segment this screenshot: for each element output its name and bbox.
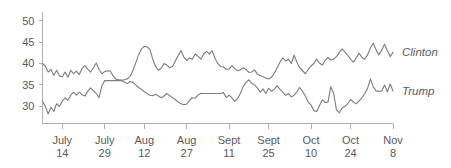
- y-tick-label-50: 50: [22, 15, 34, 27]
- series-line-trump: [43, 79, 394, 114]
- x-tick-label-month-3: Aug: [177, 134, 197, 146]
- x-tick-label-month-1: July: [95, 134, 115, 146]
- x-tick-label-day-6: 10: [305, 147, 317, 159]
- series-line-clinton: [43, 43, 394, 80]
- series-label-clinton: Clinton: [402, 46, 438, 58]
- x-axis-tick-labels: July14July29Aug12Aug27Sept11Sept25Oct10O…: [53, 134, 404, 159]
- x-axis-ticks: [62, 124, 393, 129]
- y-tick-label-30: 30: [22, 100, 34, 112]
- x-tick-label-day-3: 27: [181, 147, 193, 159]
- y-axis: 3035404550: [22, 12, 42, 124]
- x-tick-label-day-0: 14: [56, 147, 68, 159]
- y-axis-tick-labels: 3035404550: [22, 15, 34, 113]
- x-tick-label-month-2: Aug: [134, 134, 154, 146]
- x-tick-label-month-6: Oct: [302, 134, 319, 146]
- x-tick-label-day-8: 8: [390, 147, 396, 159]
- x-tick-label-day-4: 11: [223, 147, 234, 159]
- y-tick-label-40: 40: [22, 57, 34, 69]
- series-inline-labels: ClintonTrump: [402, 46, 438, 97]
- x-tick-label-month-7: Oct: [342, 134, 359, 146]
- data-series-group: [43, 43, 394, 114]
- y-axis-ticks: [39, 21, 43, 107]
- polling-average-line-chart: 3035404550 July14July29Aug12Aug27Sept11S…: [0, 0, 451, 168]
- x-tick-label-day-5: 25: [263, 147, 275, 159]
- x-tick-label-month-8: Nov: [383, 134, 403, 146]
- x-tick-label-day-2: 12: [138, 147, 150, 159]
- chart-svg: 3035404550 July14July29Aug12Aug27Sept11S…: [0, 0, 451, 168]
- x-tick-label-month-0: July: [53, 134, 73, 146]
- x-tick-label-day-7: 24: [344, 147, 356, 159]
- x-tick-label-month-4: Sept: [218, 134, 241, 146]
- series-label-trump: Trump: [402, 85, 435, 97]
- x-tick-label-month-5: Sept: [257, 134, 280, 146]
- x-tick-label-day-1: 29: [99, 147, 111, 159]
- y-tick-label-35: 35: [22, 79, 34, 91]
- x-axis: July14July29Aug12Aug27Sept11Sept25Oct10O…: [43, 124, 404, 159]
- y-tick-label-45: 45: [22, 36, 34, 48]
